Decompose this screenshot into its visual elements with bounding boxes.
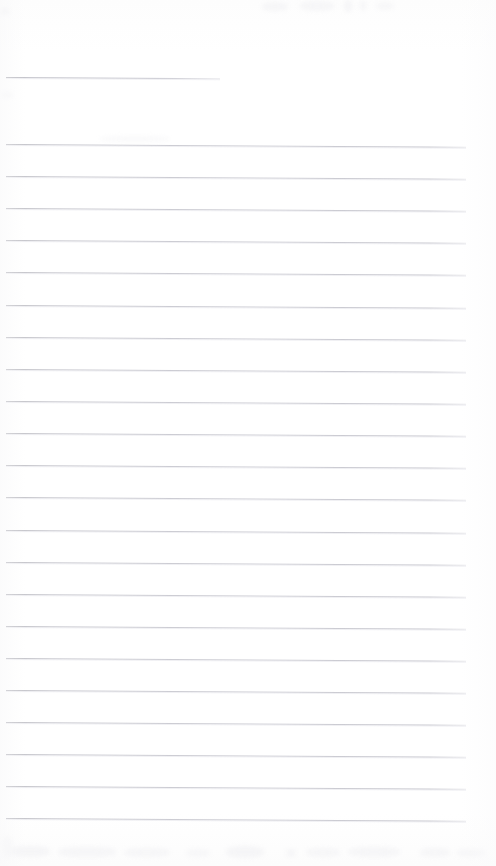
ruled-line — [6, 305, 466, 309]
header-rule — [6, 77, 220, 79]
ruled-line — [6, 401, 466, 405]
ruled-line — [6, 240, 466, 244]
ruled-line — [6, 594, 466, 598]
ruled-line — [6, 562, 466, 566]
ruled-line — [6, 818, 466, 822]
ruled-line — [6, 626, 466, 630]
ruled-line — [6, 465, 466, 469]
ruled-line-layer — [0, 0, 496, 866]
ruled-line — [6, 722, 466, 726]
ruled-line — [6, 754, 466, 758]
ruled-line — [6, 530, 466, 534]
ruled-line — [6, 208, 466, 212]
ruled-line — [6, 786, 466, 790]
ruled-line — [6, 176, 466, 180]
ruled-line — [6, 369, 466, 373]
ruled-line — [6, 658, 466, 662]
ruled-line — [6, 272, 466, 276]
ruled-line — [6, 433, 466, 437]
scanned-page: Blank ruled notebook page — [0, 0, 496, 866]
ruled-line — [6, 337, 466, 341]
ruled-line — [6, 497, 466, 501]
ruled-line — [6, 144, 466, 148]
ruled-line — [6, 690, 466, 694]
